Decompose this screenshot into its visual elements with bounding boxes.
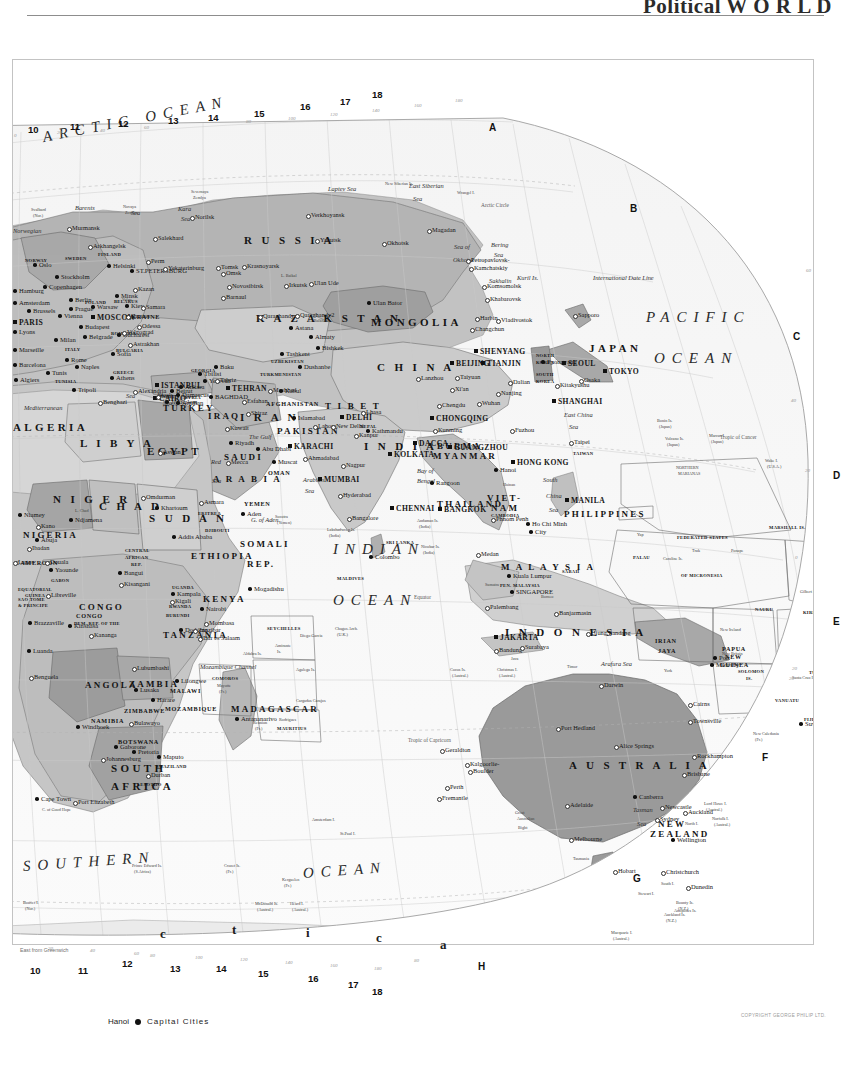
capital-city-marker	[91, 305, 95, 309]
meridian-tick-top: 20	[57, 130, 62, 135]
sea-label: Sea	[413, 196, 422, 202]
city-label: Tabriz	[220, 377, 236, 383]
city-marker	[216, 266, 221, 271]
city-marker	[450, 388, 455, 393]
island-label: Christmas I.	[497, 668, 517, 672]
country-label: FINLAND	[98, 253, 121, 258]
city-label: Petropavlovsk-	[471, 257, 510, 263]
city-marker	[437, 797, 442, 802]
grid-index-bottom: 18	[372, 986, 383, 997]
capital-city-marker	[226, 386, 230, 390]
country-label: MAURITIUS	[277, 727, 307, 732]
capital-city-marker	[72, 388, 76, 392]
city-marker	[126, 315, 131, 320]
city-marker	[29, 676, 34, 681]
city-label: Kisangani	[124, 581, 150, 587]
capital-city-marker	[69, 298, 73, 302]
city-marker	[227, 285, 232, 290]
city-marker	[510, 429, 515, 434]
island-label: Lakshadweep Is.	[327, 528, 355, 532]
capital-city-marker	[13, 363, 17, 367]
capital-city-marker	[235, 717, 239, 721]
city-label: Lanzhou	[421, 375, 443, 381]
capital-city-label: Naples	[81, 364, 99, 371]
city-label: Osaka	[584, 377, 600, 383]
capital-city-label: Hanoi	[500, 467, 516, 474]
capital-city-marker	[256, 447, 260, 451]
island-sublabel: (Austral.)	[452, 674, 468, 678]
country-label: OMAN	[268, 470, 290, 476]
country-label: JAPAN	[589, 343, 641, 354]
grid-index-right: F	[762, 752, 768, 763]
island-sublabel: (Austral.)	[257, 908, 273, 912]
island-label: Rodrigues	[279, 718, 296, 722]
city-marker	[89, 634, 94, 639]
capital-city-marker	[110, 376, 114, 380]
sea-label: South	[543, 477, 558, 483]
capital-city-marker	[165, 400, 169, 404]
country-label: JAYA	[658, 648, 676, 654]
island-label: Cargados Carajos	[296, 699, 326, 703]
city-label: Arkhangelsk	[93, 243, 126, 249]
capital-city-label: Almaty	[315, 334, 335, 341]
island-sublabel: (India)	[329, 534, 340, 538]
city-label: Zanzibar	[198, 627, 221, 633]
capital-city-label: TIANJIN	[487, 360, 521, 368]
capital-city-marker	[494, 468, 498, 472]
city-label: Dunedin	[691, 884, 713, 890]
world-map-frame[interactable]: ARCTIC OCEANPACIFICOCEANINDIANOCEANSOUTH…	[12, 59, 814, 945]
capital-city-label: Pyongyang	[547, 359, 577, 366]
island-label: C. of Good Hope	[42, 808, 71, 812]
capital-city-marker	[369, 555, 373, 559]
city-marker	[101, 758, 106, 763]
city-label: Kano	[41, 523, 55, 529]
city-marker	[303, 457, 308, 462]
island-sublabel: (Fr.)	[226, 870, 233, 874]
country-label: ITALY	[65, 348, 80, 353]
grid-index-bottom: 10	[30, 965, 41, 976]
island-label: Auckland Is.	[664, 913, 685, 917]
city-marker	[573, 314, 578, 319]
city-label: Kananga	[94, 632, 117, 638]
grid-index-bottom: 16	[308, 973, 319, 984]
city-label: Volgograd	[127, 329, 154, 335]
capital-city-marker	[107, 264, 111, 268]
sea-label: Kuril Is.	[517, 275, 538, 281]
parallel-tick: 20	[789, 676, 794, 681]
capital-city-marker	[474, 349, 478, 353]
country-label: REP.	[247, 560, 275, 569]
city-marker	[309, 282, 314, 287]
country-label: & PRINCIPE	[18, 604, 48, 609]
island-label: Cocos Is.	[450, 668, 466, 672]
city-label: Phnom Penh	[496, 516, 529, 522]
capital-city-label: Belgrade	[89, 334, 113, 341]
capital-city-label: Bishkek	[322, 345, 344, 352]
country-label: COMOROS	[212, 677, 238, 682]
city-label: Komsomolsk	[487, 283, 521, 289]
city-marker	[226, 461, 231, 466]
capital-city-marker	[75, 365, 79, 369]
capital-city-label: Baku	[220, 364, 234, 371]
city-marker	[73, 801, 78, 806]
capital-city-label: Rangoon	[436, 480, 460, 487]
capital-city-label: Abu Dhabi	[262, 446, 291, 453]
city-label: Murmansk	[72, 225, 100, 231]
capital-city-marker	[35, 797, 39, 801]
island-label: New Siberian Is.	[385, 182, 413, 186]
capital-city-marker	[27, 649, 31, 653]
capital-city-marker	[13, 320, 17, 324]
capital-city-marker	[179, 628, 183, 632]
island-label: Agalega Is.	[296, 668, 315, 672]
capital-city-label: Nairobi	[206, 606, 226, 613]
city-label: Salekhard	[158, 235, 184, 241]
city-marker	[315, 239, 320, 244]
country-label: SEYCHELLES	[267, 627, 301, 632]
ocean-label: PACIFIC	[646, 310, 751, 325]
capital-city-label: Astana	[295, 325, 313, 332]
city-label: Taipei	[574, 439, 590, 445]
capital-city-label: Luanda	[33, 648, 53, 655]
sea-label: East China	[564, 412, 593, 418]
city-label: Kamchatskiy	[474, 265, 508, 271]
city-label: Verkhoyansk	[311, 212, 344, 218]
sea-label: Laptev Sea	[328, 186, 356, 192]
